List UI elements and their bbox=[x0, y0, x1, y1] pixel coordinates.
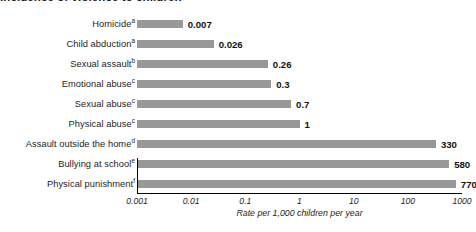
chart-figure: Incidence of violence to children Homici… bbox=[0, 0, 476, 232]
footnote-marker: a bbox=[131, 37, 135, 44]
footnote-marker: c bbox=[132, 97, 135, 104]
x-axis-tick-label: 0.1 bbox=[239, 196, 251, 206]
bar-value-label: 0.7 bbox=[296, 99, 309, 110]
footnote-marker: c bbox=[132, 77, 135, 84]
x-axis-tick-label: 1 bbox=[297, 196, 302, 206]
bar-value-label: 770 bbox=[461, 179, 476, 190]
category-label: Assault outside the homed bbox=[26, 139, 135, 149]
chart-title-clipped: Incidence of violence to children bbox=[0, 0, 300, 5]
bar bbox=[137, 40, 214, 48]
bar-row: Sexual assaultb0.26 bbox=[0, 54, 476, 74]
footnote-marker: e bbox=[131, 157, 135, 164]
bar-row: Homicidea0.007 bbox=[0, 14, 476, 34]
x-axis-tick-label: 1000 bbox=[452, 196, 471, 206]
chart-title-text: Incidence of violence to children bbox=[0, 0, 182, 3]
x-axis-line bbox=[137, 193, 462, 194]
category-label: Emotional abusec bbox=[62, 79, 135, 89]
bar-value-label: 0.3 bbox=[276, 79, 289, 90]
axis-left-cap bbox=[137, 158, 138, 194]
bar bbox=[137, 80, 271, 88]
bar bbox=[137, 160, 449, 168]
footnote-marker: c bbox=[132, 117, 135, 124]
bar-value-label: 330 bbox=[441, 139, 457, 150]
bar-value-label: 0.007 bbox=[188, 19, 212, 30]
footnote-marker: b bbox=[131, 57, 135, 64]
x-axis-tick-label: 10 bbox=[349, 196, 359, 206]
bar-row: Sexual abusec0.7 bbox=[0, 94, 476, 114]
x-axis-tick-label: 0.01 bbox=[183, 196, 200, 206]
bar-value-label: 0.26 bbox=[273, 59, 292, 70]
bar bbox=[137, 20, 183, 28]
bar-row: Emotional abusec0.3 bbox=[0, 74, 476, 94]
category-label: Child abductiona bbox=[67, 39, 135, 49]
bar bbox=[137, 120, 300, 128]
bar-row: Assault outside the homed330 bbox=[0, 134, 476, 154]
bar bbox=[137, 180, 456, 188]
category-label: Physical punishmentf bbox=[47, 179, 135, 189]
bar-row: Physical abusec1 bbox=[0, 114, 476, 134]
x-axis-tick-label: 0.001 bbox=[126, 196, 148, 206]
x-axis-title: Rate per 1,000 children per year bbox=[137, 208, 462, 218]
footnote-marker: f bbox=[133, 177, 135, 184]
bar-row: Physical punishmentf770 bbox=[0, 174, 476, 194]
bar-value-label: 0.026 bbox=[219, 39, 243, 50]
bar-row: Bullying at schoole580 bbox=[0, 154, 476, 174]
bar bbox=[137, 60, 268, 68]
footnote-marker: a bbox=[131, 17, 135, 24]
category-label: Physical abusec bbox=[69, 119, 135, 129]
category-label: Bullying at schoole bbox=[58, 159, 135, 169]
x-axis-tick-label: 100 bbox=[401, 196, 415, 206]
bar bbox=[137, 100, 291, 108]
category-label: Homicidea bbox=[92, 19, 135, 29]
bar-value-label: 580 bbox=[454, 159, 470, 170]
category-label: Sexual assaultb bbox=[70, 59, 135, 69]
bar-row: Child abductiona0.026 bbox=[0, 34, 476, 54]
bar bbox=[137, 140, 436, 148]
footnote-marker: d bbox=[131, 137, 135, 144]
category-label: Sexual abusec bbox=[75, 99, 135, 109]
plot-area: Homicidea0.007Child abductiona0.026Sexua… bbox=[0, 14, 476, 194]
bar-value-label: 1 bbox=[305, 119, 310, 130]
